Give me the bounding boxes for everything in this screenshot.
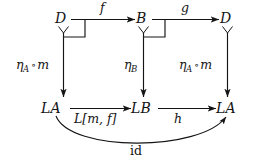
arrow-label-identity: id [130,145,142,158]
arrow-label-right-vertical: ηA∘m [179,56,212,72]
node-top-left: D [55,11,66,25]
node-bottom-left: LA [41,101,61,115]
compose-symbol-right: ∘ [193,59,201,70]
eta-subscript-middle: B [131,64,137,74]
node-top-middle: B [136,11,147,25]
mono-arrowhead-right-icon [223,27,233,34]
eta-subscript-right: A [186,64,192,74]
arrow-label-f: f [100,2,105,15]
arrow-label-h: h [174,113,182,126]
arrow-label-g: g [181,2,189,15]
arrow-label-left-vertical: ηA∘m [16,56,49,72]
mono-arrowhead-middle-icon [139,27,149,34]
commutative-diagram: B --> D --> LB --> LA --> [0,0,269,165]
compose-symbol-left: ∘ [30,59,38,70]
node-bottom-right: LA [216,101,236,115]
arrow-label-Lmf: L[m, f] [74,113,116,126]
mono-arrowhead-left-icon [59,27,69,34]
node-bottom-middle: LB [131,101,151,115]
eta-subscript-left: A [23,64,29,74]
node-top-right: D [220,11,231,25]
m-symbol-left: m [37,57,49,72]
m-symbol-right: m [200,57,212,72]
arrow-label-middle-vertical: ηB [124,56,138,72]
